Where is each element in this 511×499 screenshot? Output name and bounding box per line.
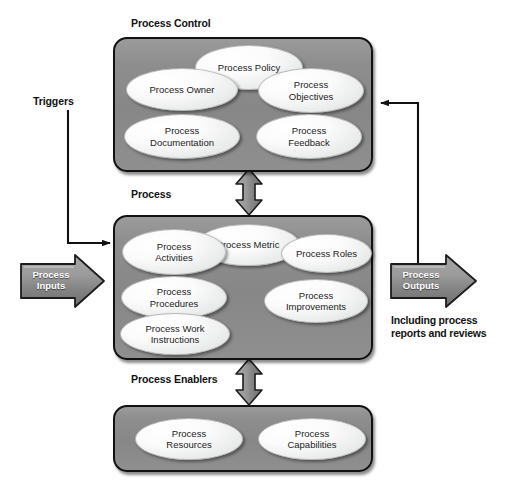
- process-outputs-arrow[interactable]: [391, 255, 476, 307]
- node-process-owner[interactable]: Process Owner: [126, 68, 238, 111]
- process-outputs-note: Including process reports and reviews: [391, 314, 511, 340]
- process-caption: Process: [131, 188, 171, 200]
- triggers-label: Triggers: [33, 95, 74, 107]
- node-label: Process Feedback: [284, 125, 334, 148]
- process-control-caption: Process Control: [131, 17, 211, 29]
- node-label: Process Owner: [146, 84, 219, 96]
- node-process-documentation[interactable]: Process Documentation: [124, 114, 240, 159]
- process-enablers-double-arrow[interactable]: [236, 359, 262, 405]
- node-process-capabilities[interactable]: Process Capabilities: [258, 418, 366, 460]
- node-label: Process Activities: [151, 241, 196, 264]
- diagram-canvas: Process Control Process Policy Process O…: [0, 0, 511, 499]
- node-process-objectives[interactable]: Process Objectives: [258, 68, 364, 113]
- node-label: Process Documentation: [146, 125, 218, 148]
- node-process-roles[interactable]: Process Roles: [281, 234, 372, 273]
- feedback-connector: [381, 103, 418, 272]
- node-label: Process Policy: [214, 62, 284, 74]
- process-enablers-caption: Process Enablers: [131, 373, 218, 385]
- node-process-work-instructions[interactable]: Process Work Instructions: [120, 313, 230, 355]
- process-inputs-arrow[interactable]: [21, 255, 104, 307]
- node-label: Process Procedures: [146, 286, 203, 309]
- control-process-double-arrow[interactable]: [236, 169, 262, 215]
- node-label: Process Capabilities: [283, 428, 340, 451]
- node-label: Process Roles: [292, 248, 361, 260]
- node-process-activities[interactable]: Process Activities: [122, 229, 226, 275]
- node-process-feedback[interactable]: Process Feedback: [256, 114, 362, 159]
- triggers-connector: [68, 110, 110, 243]
- node-label: Process Work Instructions: [142, 323, 209, 346]
- node-label: Process Objectives: [285, 79, 337, 102]
- node-label: Process Improvements: [282, 290, 350, 313]
- node-process-improvements[interactable]: Process Improvements: [264, 279, 368, 323]
- node-process-resources[interactable]: Process Resources: [135, 418, 243, 460]
- node-label: Process Resources: [162, 428, 215, 451]
